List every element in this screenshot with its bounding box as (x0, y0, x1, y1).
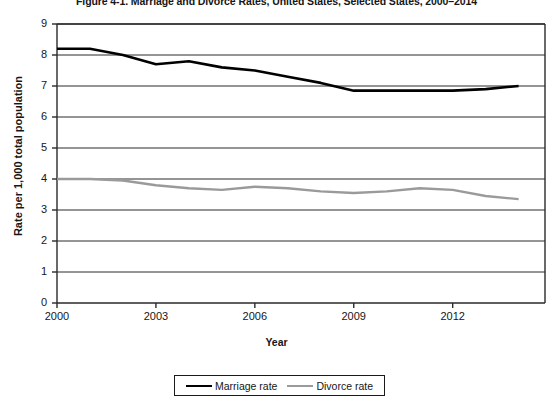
x-tick-label-2006: 2006 (225, 310, 285, 322)
chart-legend: Marriage rateDivorce rate (174, 375, 385, 396)
y-tick-label-1: 1 (13, 266, 47, 277)
y-tick-label-2: 2 (13, 235, 47, 246)
y-tick-label-3: 3 (13, 204, 47, 215)
y-tick-label-4: 4 (13, 173, 47, 184)
x-tick-label-2003: 2003 (126, 310, 186, 322)
y-tick-label-8: 8 (13, 49, 47, 60)
x-tick-label-2000: 2000 (27, 310, 87, 322)
y-tick-label-7: 7 (13, 80, 47, 91)
series-line-divorce-rate (57, 179, 519, 199)
figure-container: Figure 4-1. Marriage and Divorce Rates, … (0, 0, 553, 410)
legend-line-swatch (186, 385, 212, 387)
legend-entry-divorce-rate: Divorce rate (287, 380, 373, 392)
x-tick-label-2012: 2012 (423, 310, 483, 322)
legend-entry-marriage-rate: Marriage rate (186, 380, 277, 392)
legend-label: Divorce rate (316, 380, 373, 392)
legend-line-swatch (287, 385, 313, 387)
legend-label: Marriage rate (215, 380, 277, 392)
x-axis-title: Year (0, 336, 553, 348)
x-tick-label-2009: 2009 (324, 310, 384, 322)
chart-plot-area (0, 0, 553, 410)
y-tick-label-9: 9 (13, 18, 47, 29)
y-tick-label-0: 0 (13, 297, 47, 308)
y-tick-label-5: 5 (13, 142, 47, 153)
y-tick-label-6: 6 (13, 111, 47, 122)
